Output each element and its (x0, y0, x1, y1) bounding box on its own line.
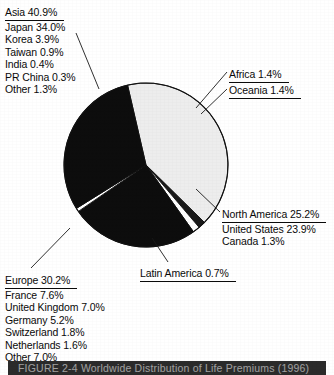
leader-line-europe (31, 228, 70, 268)
callout-asia-item: Korea 3.9% (5, 33, 76, 46)
callout-asia-item: Taiwan 0.9% (5, 46, 76, 59)
leader-line-africa (196, 72, 227, 108)
callout-europe-item: Netherlands 1.6% (5, 339, 105, 352)
callout-africa: Africa 1.4% (229, 66, 289, 83)
callout-asia-header-row: Asia 40.9% (5, 4, 76, 21)
callout-north-america: North America 25.2% United States 23.9% … (222, 206, 326, 248)
callout-north-america-item: United States 23.9% (222, 223, 326, 236)
figure-caption-band: FIGURE 2-4 Worldwide Distribution of Lif… (8, 361, 326, 375)
callout-oceania: Oceania 1.4% (229, 82, 301, 99)
callout-europe-header: Europe 30.2% (5, 274, 77, 289)
callout-europe-item: France 7.6% (5, 289, 105, 302)
callout-asia: Asia 40.9% Japan 34.0% Korea 3.9% Taiwan… (5, 4, 76, 96)
callout-asia-item: PR China 0.3% (5, 71, 76, 84)
callout-latin-america-header: Latin America 0.7% (140, 267, 236, 282)
callout-latin-america: Latin America 0.7% (140, 265, 236, 282)
callout-europe: Europe 30.2% France 7.6% United Kingdom … (5, 272, 105, 364)
callout-oceania-header: Oceania 1.4% (229, 84, 301, 99)
callout-latin-america-header-row: Latin America 0.7% (140, 265, 236, 282)
leader-line-oceania (201, 89, 227, 114)
callout-europe-item: United Kingdom 7.0% (5, 301, 105, 314)
leader-line-asia (76, 33, 99, 89)
callout-africa-header-row: Africa 1.4% (229, 66, 289, 83)
callout-europe-header-row: Europe 30.2% (5, 272, 105, 289)
callout-north-america-header: North America 25.2% (222, 208, 326, 223)
callout-asia-item: Japan 34.0% (5, 21, 76, 34)
callout-oceania-header-row: Oceania 1.4% (229, 82, 301, 99)
callout-asia-item: Other 1.3% (5, 83, 76, 96)
callout-europe-item: Switzerland 1.8% (5, 326, 105, 339)
callout-africa-header: Africa 1.4% (229, 68, 289, 83)
callout-europe-item: Germany 5.2% (5, 314, 105, 327)
callout-asia-header: Asia 40.9% (5, 6, 64, 21)
callout-north-america-item: Canada 1.3% (222, 235, 326, 248)
callout-asia-item: India 0.4% (5, 58, 76, 71)
figure-caption: FIGURE 2-4 Worldwide Distribution of Lif… (18, 362, 309, 374)
pie-slice-group (64, 83, 228, 247)
callout-north-america-header-row: North America 25.2% (222, 206, 326, 223)
